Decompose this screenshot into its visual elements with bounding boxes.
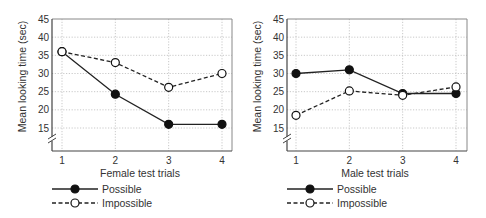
y-tick-label: 45 [273,14,285,25]
y-tick-label: 30 [38,68,50,79]
y-tick-label: 45 [38,14,50,25]
open-circle-marker [452,83,460,91]
chart-panel-female: 152025303540451234Female test trialsMean… [16,14,232,209]
legend-label: Possible [102,183,142,195]
chart-panel-male: 152025303540451234Male test trialsMean l… [251,14,467,209]
x-tick-label: 3 [400,155,406,166]
x-tick-label: 1 [293,155,299,166]
y-axis-label: Mean looking time (sec) [251,21,263,132]
filled-circle-marker [218,120,226,128]
open-circle-icon [306,199,314,207]
y-tick-label: 15 [38,123,50,134]
series-line-possible [62,52,222,125]
x-tick-label: 4 [219,155,225,166]
y-tick-label: 15 [273,123,285,134]
y-tick-label: 40 [273,32,285,43]
filled-circle-icon [306,185,314,193]
filled-circle-marker [111,90,119,98]
open-circle-marker [218,70,226,78]
x-tick-label: 1 [59,155,65,166]
x-tick-label: 3 [166,155,172,166]
x-axis-label: Female test trials [100,167,180,179]
open-circle-marker [111,59,119,67]
filled-circle-icon [71,185,79,193]
y-tick-label: 35 [38,50,50,61]
open-circle-marker [399,91,407,99]
open-circle-marker [165,83,173,91]
y-tick-label: 25 [38,86,50,97]
legend: PossibleImpossible [52,183,152,209]
open-circle-marker [345,87,353,95]
y-tick-label: 25 [273,86,285,97]
series-line-impossible [296,87,456,115]
legend-label: Possible [337,183,377,195]
filled-circle-marker [292,70,300,78]
y-tick-label: 35 [273,50,285,61]
legend-item-impossible: Impossible [287,197,387,209]
legend-item-possible: Possible [52,183,142,195]
charts-canvas: 152025303540451234Female test trialsMean… [0,0,486,218]
figure: 152025303540451234Female test trialsMean… [0,0,486,218]
legend-label: Impossible [337,197,387,209]
series-line-impossible [62,52,222,88]
x-tick-label: 2 [113,155,119,166]
legend: PossibleImpossible [287,183,387,209]
x-axis-label: Male test trials [341,167,409,179]
open-circle-icon [71,199,79,207]
y-tick-label: 20 [38,104,50,115]
open-circle-marker [58,48,66,56]
filled-circle-marker [345,66,353,74]
legend-item-possible: Possible [287,183,377,195]
filled-circle-marker [165,120,173,128]
x-tick-label: 4 [453,155,459,166]
series-line-possible [296,70,456,94]
y-axis-label: Mean looking time (sec) [16,21,28,132]
y-tick-label: 20 [273,104,285,115]
legend-item-impossible: Impossible [52,197,152,209]
y-tick-label: 40 [38,32,50,43]
open-circle-marker [292,111,300,119]
y-tick-label: 30 [273,68,285,79]
x-tick-label: 2 [347,155,353,166]
legend-label: Impossible [102,197,152,209]
